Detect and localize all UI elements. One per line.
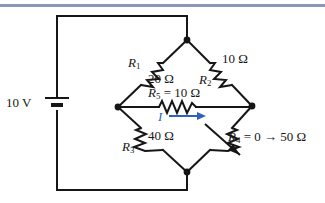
node-right: [249, 103, 256, 110]
arm-bottom-left: [163, 150, 187, 172]
r2-name: R: [199, 72, 207, 87]
r3-subscript: 3: [130, 145, 134, 155]
arm-top-left-lower: [118, 85, 141, 107]
arm-bottom-right: [187, 150, 210, 172]
resistor-r2-value: 10 Ω: [222, 52, 248, 65]
circuit-figure: 10 V R1 20 Ω R2 10 Ω R5 = 10 Ω I R3 40 Ω…: [0, 0, 325, 203]
arm-bottom-right-upper: [232, 106, 252, 128]
r4-value: = 0 → 50 Ω: [240, 129, 306, 144]
node-left: [115, 104, 122, 111]
resistor-r2-symbol: [210, 63, 232, 87]
current-label: I: [158, 110, 162, 123]
arm-top-left: [163, 40, 187, 63]
resistor-r5-label: R5 = 10 Ω: [148, 86, 200, 101]
resistor-r3-label: R3: [122, 140, 134, 155]
r5-value: = 10 Ω: [160, 85, 200, 100]
resistor-r1-value: 20 Ω: [148, 72, 174, 85]
node-top: [184, 37, 191, 44]
arm-bottom-left-upper: [118, 107, 141, 128]
arm-top-right-lower: [232, 85, 252, 106]
r4-name: R: [228, 129, 236, 144]
r2-subscript: 2: [207, 78, 211, 88]
r5-name: R: [148, 85, 156, 100]
resistor-r4-label: R4 = 0 → 50 Ω: [228, 130, 306, 145]
battery-symbol: [45, 98, 69, 105]
r3-name: R: [122, 139, 130, 154]
resistor-r1-label: R1: [128, 56, 140, 71]
node-bottom: [184, 169, 191, 176]
resistor-r5-symbol: [159, 101, 196, 113]
resistor-r2-label: R2: [199, 73, 211, 88]
circuit-schematic: [0, 0, 325, 203]
r1-name: R: [128, 55, 136, 70]
resistor-r3-value: 40 Ω: [148, 129, 174, 142]
wire-bottom: [57, 172, 187, 190]
arm-top-right: [187, 40, 210, 63]
voltage-source-label: 10 V: [6, 96, 31, 109]
wire-top: [57, 16, 187, 40]
r1-subscript: 1: [136, 61, 140, 71]
